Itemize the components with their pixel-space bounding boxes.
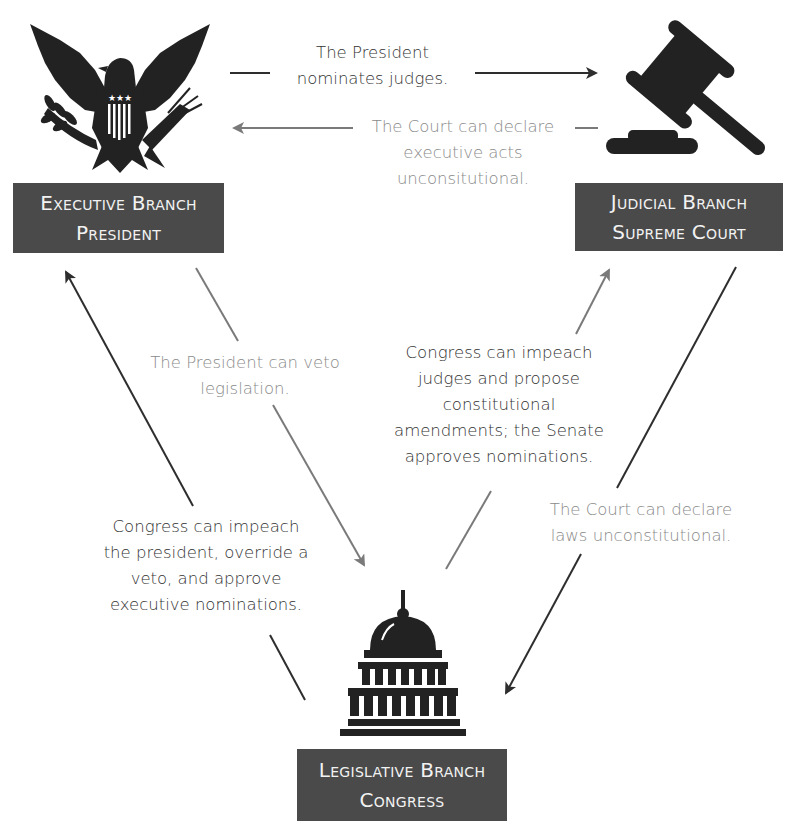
note-exec-to-judicial: The President nominates judges. xyxy=(270,40,475,92)
judicial-branch-box: Judicial Branch Supreme Court xyxy=(575,183,783,251)
legislative-branch-box: Legislative Branch Congress xyxy=(297,749,507,821)
note-judicial-to-exec: The Court can declare executive acts unc… xyxy=(352,114,574,192)
gavel-icon xyxy=(600,18,780,168)
note-line: The Court can declare xyxy=(352,114,574,140)
note-judicial-to-legislative: The Court can declare laws unconstitutio… xyxy=(530,497,752,549)
note-line: nominates judges. xyxy=(270,66,475,92)
note-line: the president, override a xyxy=(88,540,324,566)
legislative-branch-subtitle: Congress xyxy=(297,785,507,815)
note-line: legislation. xyxy=(140,376,350,402)
legislative-branch-title: Legislative Branch xyxy=(297,755,507,785)
note-line: The Court can declare xyxy=(530,497,752,523)
judicial-branch-subtitle: Supreme Court xyxy=(575,217,783,247)
note-line: Congress can impeach xyxy=(88,514,324,540)
capitol-building-icon xyxy=(340,588,470,738)
executive-branch-box: Executive Branch President xyxy=(13,183,224,253)
note-line: unconsitutional. xyxy=(352,166,574,192)
note-line: approves nominations. xyxy=(388,444,610,470)
arrow-judicial-to-legislative xyxy=(506,267,736,693)
note-line: constitutional xyxy=(388,392,610,418)
checks-and-balances-diagram: ★★★ xyxy=(0,0,787,832)
note-line: laws unconstitutional. xyxy=(530,523,752,549)
note-line: veto, and approve xyxy=(88,566,324,592)
note-line: amendments; the Senate xyxy=(388,418,610,444)
note-line: executive acts xyxy=(352,140,574,166)
note-line: Congress can impeach xyxy=(388,340,610,366)
eagle-seal-icon: ★★★ xyxy=(20,18,220,173)
note-line: The President xyxy=(270,40,475,66)
judicial-branch-title: Judicial Branch xyxy=(575,187,783,217)
svg-text:★★★: ★★★ xyxy=(108,93,132,103)
note-line: executive nominations. xyxy=(88,592,324,618)
executive-branch-subtitle: President xyxy=(13,218,224,248)
note-exec-to-legislative: The President can veto legislation. xyxy=(140,350,350,402)
note-line: The President can veto xyxy=(140,350,350,376)
note-line: judges and propose xyxy=(388,366,610,392)
executive-branch-title: Executive Branch xyxy=(13,188,224,218)
note-legislative-to-exec: Congress can impeach the president, over… xyxy=(88,514,324,618)
arrow-legislative-to-exec xyxy=(66,272,305,700)
note-legislative-to-judicial: Congress can impeach judges and propose … xyxy=(388,340,610,470)
